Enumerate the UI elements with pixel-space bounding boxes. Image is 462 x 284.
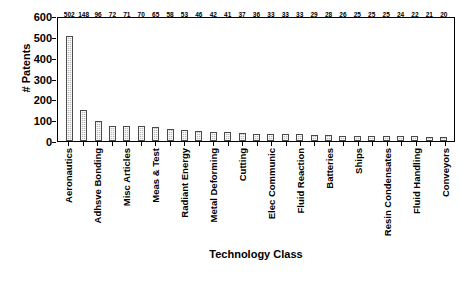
x-axis-category-label: Resin Condensates xyxy=(382,148,391,236)
y-axis-tick-label: 400 xyxy=(34,55,52,63)
x-axis-tick-column xyxy=(336,142,350,147)
x-axis-tick-mark xyxy=(242,142,243,146)
bar-value-label: 148 xyxy=(78,11,89,18)
x-axis-category-label: Misc Articles xyxy=(122,148,131,206)
bar-column: 25 xyxy=(365,18,379,141)
x-axis-tick-column xyxy=(191,142,205,147)
bar: 28 xyxy=(325,135,332,141)
bar-value-label: 72 xyxy=(109,11,116,18)
bar-column: 33 xyxy=(278,18,292,141)
x-axis-tick-column xyxy=(235,142,249,147)
bar: 53 xyxy=(181,130,188,141)
x-axis-category-label: Fluid Reaction xyxy=(295,148,304,213)
x-axis-tick-column xyxy=(438,142,452,147)
bar-value-label: 25 xyxy=(368,11,375,18)
x-axis-label-column: Resin Condensates xyxy=(380,148,394,240)
x-axis-tick-column xyxy=(104,142,118,147)
x-axis-tick-mark xyxy=(68,142,69,146)
bar-value-label: 21 xyxy=(426,11,433,18)
x-axis-tick-column xyxy=(90,142,104,147)
bar-value-label: 33 xyxy=(282,11,289,18)
bar-value-label: 46 xyxy=(195,11,202,18)
bar-value-label: 96 xyxy=(94,11,101,18)
bar-column: 71 xyxy=(120,18,134,141)
bar-column: 29 xyxy=(307,18,321,141)
x-axis-label-column: Radiant Energy xyxy=(177,148,191,240)
x-axis-category-labels: AeronauticsAdhsve BondingMisc ArticlesMe… xyxy=(57,148,455,240)
bar-column: 96 xyxy=(91,18,105,141)
x-axis-tick-marks xyxy=(57,142,455,147)
bar: 24 xyxy=(397,136,404,141)
y-axis-tick-labels: 0100200300400500600 xyxy=(18,17,52,142)
x-axis-label-column xyxy=(220,148,234,240)
x-axis-tick-column xyxy=(177,142,191,147)
y-axis-tick-mark xyxy=(52,38,56,39)
x-axis-tick-mark xyxy=(300,142,301,146)
x-axis-category-label: Radiant Energy xyxy=(180,148,189,218)
x-axis-label-column: Metal Deforming xyxy=(206,148,220,240)
x-axis-category-label: Metal Deforming xyxy=(209,148,218,222)
x-axis-tick-mark xyxy=(170,142,171,146)
x-axis-label-column: Ships xyxy=(351,148,365,240)
x-axis-label-column xyxy=(191,148,205,240)
y-axis-tick-label: 200 xyxy=(34,96,52,104)
bar: 33 xyxy=(267,134,274,141)
bar-value-label: 25 xyxy=(354,11,361,18)
bar-value-label: 71 xyxy=(123,11,130,18)
bar: 70 xyxy=(138,126,145,141)
y-axis-tick-label: 100 xyxy=(34,117,52,125)
x-axis-tick-column xyxy=(206,142,220,147)
x-axis-tick-column xyxy=(278,142,292,147)
x-axis-category-label: Batteries xyxy=(324,148,333,189)
bar-value-label: 33 xyxy=(296,11,303,18)
bar-column: 33 xyxy=(293,18,307,141)
bar-column: 53 xyxy=(177,18,191,141)
x-axis-label-column: Meas & Test xyxy=(148,148,162,240)
bar-value-label: 502 xyxy=(64,11,75,18)
x-axis-tick-mark xyxy=(126,142,127,146)
bar: 37 xyxy=(239,133,246,141)
bar-column: 65 xyxy=(148,18,162,141)
bar: 36 xyxy=(253,134,260,142)
x-axis-label-column: Fluid Handling xyxy=(409,148,423,240)
y-axis-tick-mark xyxy=(52,100,56,101)
x-axis-label-column xyxy=(365,148,379,240)
bar-value-label: 53 xyxy=(181,11,188,18)
bar-column: 22 xyxy=(408,18,422,141)
x-axis-tick-column xyxy=(322,142,336,147)
y-axis-tick-mark xyxy=(52,59,56,60)
x-axis-tick-mark xyxy=(83,142,84,146)
chart-container: # Patents 0100200300400500600 5021489672… xyxy=(0,0,462,284)
bar: 41 xyxy=(224,132,231,141)
x-axis-label-column xyxy=(133,148,147,240)
x-axis-tick-column xyxy=(75,142,89,147)
bar-value-label: 70 xyxy=(138,11,145,18)
bar-column: 72 xyxy=(105,18,119,141)
x-axis-label-column xyxy=(336,148,350,240)
bar: 26 xyxy=(339,136,346,141)
x-axis-tick-column xyxy=(307,142,321,147)
bar-value-label: 24 xyxy=(397,11,404,18)
x-axis-category-label: Adhsve Bonding xyxy=(93,148,102,223)
bar-column: 26 xyxy=(336,18,350,141)
x-axis-tick-column xyxy=(409,142,423,147)
bar-column: 28 xyxy=(321,18,335,141)
bar-value-label: 25 xyxy=(383,11,390,18)
x-axis-tick-column xyxy=(148,142,162,147)
y-axis-tick-label: 300 xyxy=(34,76,52,84)
x-axis-tick-mark xyxy=(199,142,200,146)
x-axis-tick-mark xyxy=(314,142,315,146)
x-axis-category-label: Conveyors xyxy=(440,148,449,197)
x-axis-label-column xyxy=(162,148,176,240)
bar-series: 5021489672717065585346424137363333332928… xyxy=(58,18,454,141)
bar-value-label: 41 xyxy=(224,11,231,18)
x-axis-tick-column xyxy=(133,142,147,147)
x-axis-tick-column xyxy=(394,142,408,147)
x-axis-label-column: Adhsve Bonding xyxy=(90,148,104,240)
bar-value-label: 20 xyxy=(440,11,447,18)
bar-column: 21 xyxy=(422,18,436,141)
bar-value-label: 36 xyxy=(253,11,260,18)
y-axis-tick-mark xyxy=(52,121,56,122)
bar: 21 xyxy=(426,137,433,141)
y-axis-tick-mark xyxy=(52,17,56,18)
